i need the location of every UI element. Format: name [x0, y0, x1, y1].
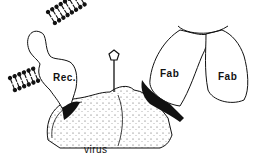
virus-label: virus	[84, 144, 108, 155]
pentagon-ligand-icon	[109, 50, 119, 92]
fab-left-label: Fab	[160, 68, 179, 79]
diagram-canvas: Rec. Fab Fab virus	[0, 0, 258, 157]
fab-right-shape	[206, 30, 248, 102]
receptor-label: Rec.	[53, 72, 76, 83]
fab-right-label: Fab	[218, 71, 237, 82]
